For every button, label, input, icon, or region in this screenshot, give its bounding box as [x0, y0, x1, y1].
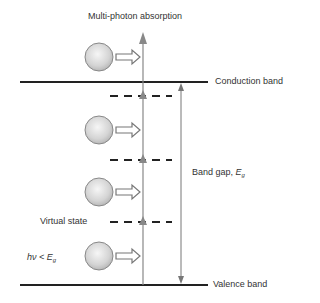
valence-band-label: Valence band: [213, 280, 267, 289]
photon-energy-label: hν < Eg: [27, 253, 56, 263]
virtual-state-label: Virtual state: [40, 217, 87, 226]
absorption-arrow-icon: [139, 32, 147, 285]
band-gap-text: Band gap,: [192, 167, 236, 177]
photon-energy-subscript: g: [53, 257, 56, 263]
photon-4: [85, 242, 140, 270]
photon-3: [85, 178, 140, 206]
photon-1: [85, 43, 140, 71]
band-gap-label: Band gap, Eg: [192, 168, 245, 178]
photon-energy-text: hν < E: [27, 252, 53, 262]
diagram-title: Multi-photon absorption: [88, 12, 182, 21]
photon-2: [85, 116, 140, 144]
conduction-band-label: Conduction band: [215, 77, 283, 86]
band-gap-subscript: g: [242, 172, 245, 178]
band-gap-arrow-icon: [178, 83, 184, 284]
